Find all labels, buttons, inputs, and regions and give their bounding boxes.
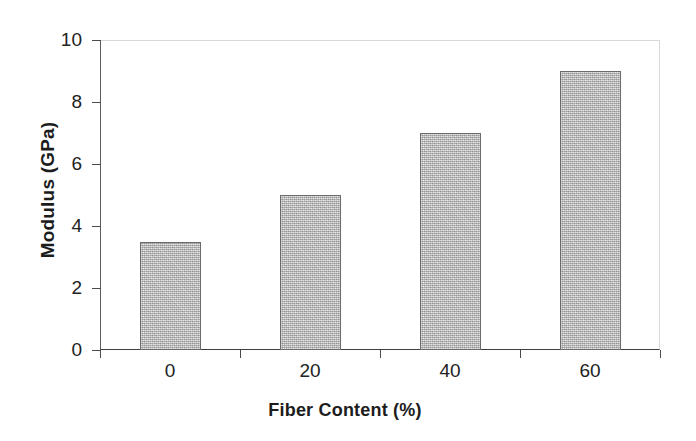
y-axis-tick-label: 8 <box>36 91 82 113</box>
bar <box>140 242 201 351</box>
x-axis-tick <box>380 350 381 358</box>
x-axis-title: Fiber Content (%) <box>100 400 590 421</box>
x-axis-tick-label: 0 <box>130 360 210 382</box>
y-axis-tick-label: 2 <box>36 277 82 299</box>
bar <box>420 133 481 350</box>
x-axis-tick-label: 20 <box>270 360 350 382</box>
bar <box>560 71 621 350</box>
y-axis-tick <box>92 288 101 289</box>
x-axis-tick <box>520 350 521 358</box>
x-axis-tick <box>240 350 241 358</box>
y-axis-tick-label: 6 <box>36 153 82 175</box>
y-axis-tick-label: 10 <box>36 29 82 51</box>
y-axis-tick <box>92 164 101 165</box>
bar-chart-figure: Modulus (GPa) 0246810 0204060 Fiber Cont… <box>0 0 696 441</box>
bar <box>280 195 341 350</box>
x-axis-tick <box>660 350 661 358</box>
y-axis-tick-label: 4 <box>36 215 82 237</box>
x-axis-tick-label: 40 <box>410 360 490 382</box>
x-axis-tick-label: 60 <box>550 360 630 382</box>
y-axis-tick <box>92 226 101 227</box>
y-axis-tick <box>92 40 101 41</box>
y-axis-tick <box>92 102 101 103</box>
x-axis-tick <box>100 350 101 358</box>
y-axis-tick-label: 0 <box>36 339 82 361</box>
